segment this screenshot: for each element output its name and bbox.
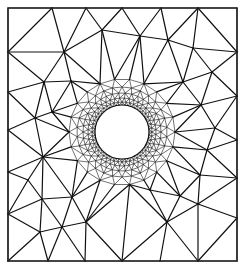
mesh-edge xyxy=(44,81,71,82)
mesh-edge xyxy=(88,128,92,130)
mesh-edge xyxy=(122,171,125,177)
mesh-edge xyxy=(152,125,156,128)
mesh-edge xyxy=(89,102,92,108)
mesh-edge xyxy=(42,197,72,199)
mesh-edge xyxy=(134,100,138,102)
mesh-edge xyxy=(96,161,101,165)
mesh-edge xyxy=(106,162,110,164)
mesh-edge xyxy=(152,116,154,120)
mesh-edge xyxy=(138,102,142,105)
mesh-edge xyxy=(126,162,129,166)
mesh-edge xyxy=(155,162,156,172)
mesh-edge xyxy=(155,102,166,103)
mesh-edge xyxy=(142,99,143,104)
mesh-edge xyxy=(112,165,114,170)
mesh-edge xyxy=(101,99,106,102)
mesh-edge xyxy=(42,199,62,227)
mesh-edge xyxy=(98,108,101,111)
mesh-edge xyxy=(161,118,165,126)
mesh-edge xyxy=(40,232,48,261)
mesh-edge xyxy=(167,132,175,137)
mesh-edge xyxy=(8,52,44,82)
mesh-edge xyxy=(156,110,161,114)
mesh-edge xyxy=(91,108,95,112)
mesh-diagram xyxy=(0,0,245,268)
mesh-edge xyxy=(101,108,104,111)
mesh-edge xyxy=(142,156,146,159)
mesh-edge xyxy=(161,132,167,137)
mesh-edge xyxy=(152,134,156,136)
mesh-edge xyxy=(87,168,95,172)
mesh-edge xyxy=(122,8,140,36)
mesh-edge xyxy=(100,30,102,84)
mesh-edge xyxy=(124,166,125,171)
mesh-edge xyxy=(98,111,101,114)
mesh-edge xyxy=(161,127,167,132)
mesh-edge xyxy=(91,103,95,108)
mesh-edge xyxy=(106,96,110,100)
mesh-edge xyxy=(156,126,161,130)
mesh-edge xyxy=(152,128,156,130)
mesh-edge xyxy=(115,162,118,166)
mesh-edge xyxy=(87,172,100,180)
mesh-edge xyxy=(71,146,79,147)
mesh-edge xyxy=(8,92,35,118)
mesh-edge xyxy=(96,147,98,150)
mesh-edge xyxy=(138,96,139,102)
mesh-edge xyxy=(71,117,79,118)
mesh-edge xyxy=(130,80,132,89)
mesh-edge xyxy=(98,156,102,159)
mesh-edge xyxy=(77,118,79,127)
mesh-edge xyxy=(124,162,126,166)
mesh-edge xyxy=(84,119,86,125)
mesh-edge xyxy=(89,162,96,168)
mesh-edge xyxy=(161,138,165,146)
mesh-edge xyxy=(43,132,69,157)
mesh-edge xyxy=(175,128,215,132)
mesh-edge xyxy=(155,125,160,126)
mesh-edge xyxy=(48,227,62,261)
mesh-edge xyxy=(83,132,88,134)
mesh-edge xyxy=(165,117,173,118)
mesh-edge xyxy=(142,159,143,164)
mesh-edge xyxy=(151,124,155,125)
mesh-edge xyxy=(149,152,153,156)
mesh-edge xyxy=(183,72,212,82)
mesh-edge xyxy=(168,40,183,82)
mesh-edge xyxy=(85,222,86,261)
mesh-edge xyxy=(161,103,167,109)
mesh-edge xyxy=(161,137,167,139)
mesh-edge xyxy=(89,139,90,144)
mesh-edge xyxy=(84,138,89,139)
mesh-edge xyxy=(149,162,156,168)
mesh-edge xyxy=(89,124,93,125)
mesh-edge xyxy=(149,96,156,102)
mesh-edge xyxy=(114,161,115,165)
mesh-edge xyxy=(96,114,98,117)
mesh-edge xyxy=(69,127,77,132)
mesh-edge xyxy=(8,180,28,214)
mesh-edge xyxy=(130,80,145,84)
mesh-edge xyxy=(69,117,71,132)
mesh-edge xyxy=(168,40,193,48)
mesh-edge xyxy=(98,153,101,156)
mesh-edge xyxy=(85,139,89,145)
mesh-edge xyxy=(89,96,96,102)
mesh-edge xyxy=(115,99,118,103)
mesh-edge xyxy=(113,87,122,88)
mesh-edge xyxy=(113,80,115,89)
mesh-edge xyxy=(167,222,198,261)
mesh-edge xyxy=(113,176,122,177)
mesh-edge xyxy=(77,102,88,103)
mesh-edge xyxy=(155,161,166,162)
mesh-edge xyxy=(152,144,154,148)
mesh-edge xyxy=(161,126,162,132)
mesh-edge xyxy=(43,147,71,157)
mesh-edge xyxy=(118,98,120,102)
mesh-edge xyxy=(77,137,79,146)
mesh-edge xyxy=(161,155,167,161)
mesh-edge xyxy=(35,118,69,132)
mesh-edge xyxy=(154,120,155,125)
mesh-edge xyxy=(83,126,84,132)
mesh-edge xyxy=(167,137,173,147)
